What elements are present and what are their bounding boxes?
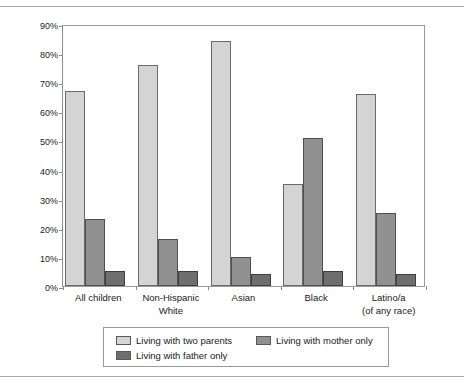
- x-axis-label-line: Latino/a: [342, 292, 435, 305]
- x-tick-mark: [426, 286, 427, 290]
- y-tick-label: 80%: [40, 50, 58, 60]
- top-divider-rule: [0, 6, 464, 7]
- chart-legend: Living with two parents Living with moth…: [103, 327, 389, 367]
- legend-label-mother-only: Living with mother only: [276, 335, 373, 346]
- legend-row-2: Living with father only: [104, 348, 388, 363]
- bar: [138, 65, 158, 286]
- y-tick-label: 60%: [40, 108, 58, 118]
- bar: [323, 271, 343, 286]
- bar: [283, 184, 303, 286]
- bar: [105, 271, 125, 286]
- x-tick-mark: [208, 286, 209, 290]
- y-tick-label: 70%: [40, 79, 58, 89]
- legend-entry-mother-only: Living with mother only: [256, 333, 373, 348]
- bar: [231, 257, 251, 286]
- bar-group: [356, 26, 416, 286]
- bar: [158, 239, 178, 286]
- legend-swatch-father-only: [116, 351, 131, 360]
- x-axis-label: Latino/a(of any race): [342, 292, 435, 317]
- bar-group: [283, 26, 343, 286]
- y-tick-label: 40%: [40, 167, 58, 177]
- bar: [356, 94, 376, 286]
- y-tick-label: 50%: [40, 137, 58, 147]
- y-tick-label: 90%: [40, 21, 58, 31]
- bars-layer: [63, 26, 424, 286]
- bar: [303, 138, 323, 286]
- x-axis-label-line: (of any race): [342, 305, 435, 318]
- bar-group: [65, 26, 125, 286]
- legend-swatch-two-parents: [116, 336, 131, 345]
- legend-label-father-only: Living with father only: [136, 350, 227, 361]
- bar: [178, 271, 198, 286]
- bar: [396, 274, 416, 286]
- bar: [65, 91, 85, 286]
- bar-group: [211, 26, 271, 286]
- legend-label-two-parents: Living with two parents: [136, 335, 232, 346]
- x-tick-mark: [281, 286, 282, 290]
- bar: [376, 213, 396, 286]
- y-tick-label: 30%: [40, 196, 58, 206]
- bar-group: [138, 26, 198, 286]
- bar: [85, 219, 105, 286]
- x-axis-labels: All childrenNon-HispanicWhiteAsianBlackL…: [62, 292, 425, 326]
- figure-container: Percentage distribution of family compos…: [0, 0, 464, 385]
- x-tick-mark: [63, 286, 64, 290]
- legend-row-1: Living with two parents Living with moth…: [104, 333, 388, 348]
- plot-area: 0%10%20%30%40%50%60%70%80%90%: [62, 25, 425, 287]
- x-axis-label-line: White: [125, 305, 218, 318]
- legend-swatch-mother-only: [256, 336, 271, 345]
- y-tick-label: 10%: [40, 254, 58, 264]
- bar: [211, 41, 231, 286]
- x-tick-mark: [136, 286, 137, 290]
- y-tick-label: 20%: [40, 225, 58, 235]
- legend-entry-father-only: Living with father only: [116, 348, 227, 363]
- legend-entry-two-parents: Living with two parents: [116, 333, 232, 348]
- bar: [251, 274, 271, 286]
- bottom-divider-rule: [0, 376, 464, 377]
- x-tick-mark: [353, 286, 354, 290]
